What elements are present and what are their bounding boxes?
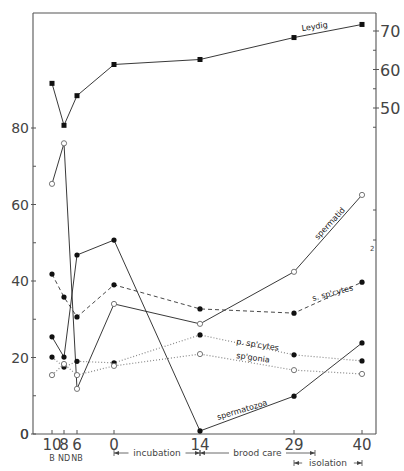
marker-open-circle-sp-gonia: [49, 372, 54, 377]
left-tick-label: 20: [11, 350, 29, 366]
marker-filled-circle-spermatozoa: [197, 428, 202, 433]
marker-filled-circle-s-sp-cytes: [359, 280, 364, 285]
series-label: sp'gonia: [236, 351, 271, 365]
left-tick-label: 80: [11, 120, 29, 136]
marker-filled-circle-spermatozoa: [291, 394, 296, 399]
series-line-leydig: [52, 24, 362, 125]
marker-open-circle-spermatid: [61, 141, 66, 146]
series-label: Leydig: [301, 20, 328, 33]
marker-filled-circle-spermatozoa: [49, 334, 54, 339]
series-line-spermatozoa: [52, 240, 362, 431]
marker-open-circle-sp-gonia: [197, 351, 202, 356]
series-line-sp-gonia: [52, 354, 362, 375]
brood-care-period-arrow-right: [310, 451, 315, 455]
isolation-period-arrow-left: [294, 461, 299, 465]
marker-open-circle-spermatid: [197, 321, 202, 326]
marker-filled-circle-spermatozoa: [111, 237, 116, 242]
marker-filled-circle-p-sp-cytes: [291, 352, 296, 357]
incubation-period-label: incubation: [133, 448, 180, 458]
marker-open-circle-sp-gonia: [359, 371, 364, 376]
marker-square-leydig: [112, 62, 117, 67]
x-sub-label: NB: [71, 454, 82, 463]
brood-care-period-label: brood care: [233, 448, 282, 458]
marker-filled-circle-spermatozoa: [74, 252, 79, 257]
left-tick-label: 60: [11, 197, 29, 213]
marker-filled-circle-p-sp-cytes: [197, 332, 202, 337]
marker-filled-circle-p-sp-cytes: [49, 355, 54, 360]
right-axis-annotation: 2: [370, 245, 374, 253]
marker-filled-circle-spermatozoa: [61, 355, 66, 360]
marker-filled-circle-p-sp-cytes: [74, 359, 79, 364]
marker-open-circle-spermatid: [291, 269, 296, 274]
x-tick-label: 40: [352, 436, 371, 454]
x-tick-label: 6: [72, 436, 82, 454]
right-tick-label: 70: [380, 22, 400, 41]
marker-open-circle-spermatid: [49, 181, 54, 186]
x-sub-label: B: [49, 454, 55, 463]
marker-square-leydig: [360, 22, 365, 27]
marker-open-circle-spermatid: [359, 192, 364, 197]
marker-square-leydig: [292, 35, 297, 40]
marker-filled-circle-s-sp-cytes: [111, 282, 116, 287]
isolation-period-arrow-right: [357, 461, 362, 465]
marker-filled-circle-s-sp-cytes: [291, 311, 296, 316]
series-label: p. sp'cytes: [236, 337, 280, 353]
marker-open-circle-sp-gonia: [61, 361, 66, 366]
marker-open-circle-sp-gonia: [74, 372, 79, 377]
chart-canvas: 020406080506070210B8ND6NB01429400incubat…: [0, 0, 404, 471]
marker-filled-circle-s-sp-cytes: [74, 314, 79, 319]
x-sub-label: ND: [58, 454, 70, 463]
series-label: s. sp'cytes: [311, 283, 354, 303]
series-label: spermatozoa: [216, 398, 268, 422]
marker-open-circle-sp-gonia: [291, 368, 296, 373]
marker-open-circle-spermatid: [111, 301, 116, 306]
marker-square-leydig: [198, 57, 203, 62]
marker-open-circle-sp-gonia: [111, 363, 116, 368]
series-line-spermatid: [52, 143, 362, 389]
marker-square-leydig: [75, 93, 80, 98]
marker-filled-circle-s-sp-cytes: [49, 272, 54, 277]
marker-square-leydig: [62, 123, 67, 128]
x-tick-label: 8: [59, 436, 69, 454]
series-label: spermatid: [313, 206, 347, 242]
right-tick-label: 50: [380, 99, 400, 118]
marker-filled-circle-spermatozoa: [359, 340, 364, 345]
isolation-period-label: isolation: [309, 458, 347, 468]
left-tick-label: 40: [11, 273, 29, 289]
marker-filled-circle-s-sp-cytes: [197, 306, 202, 311]
right-tick-label: 60: [380, 61, 400, 80]
marker-filled-circle-s-sp-cytes: [61, 294, 66, 299]
origin-label: 0: [20, 426, 29, 442]
marker-square-leydig: [50, 81, 55, 86]
chart: 020406080506070210B8ND6NB01429400incubat…: [0, 0, 404, 471]
marker-filled-circle-p-sp-cytes: [359, 358, 364, 363]
x-tick-label: 29: [284, 436, 303, 454]
marker-open-circle-spermatid: [74, 386, 79, 391]
